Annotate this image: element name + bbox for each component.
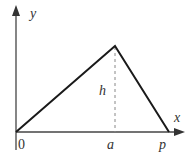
- x-axis-label: x: [173, 110, 181, 125]
- triangle-path: [16, 46, 169, 132]
- x-axis-arrow-icon: [174, 128, 185, 136]
- origin-label: 0: [18, 137, 25, 152]
- end-x-label: p: [158, 137, 166, 152]
- peak-x-label: a: [107, 137, 114, 152]
- triangle-graph: y x 0 a p h: [0, 0, 187, 162]
- y-axis-label: y: [28, 6, 37, 21]
- y-axis-arrow-icon: [12, 5, 20, 16]
- height-label: h: [99, 83, 106, 98]
